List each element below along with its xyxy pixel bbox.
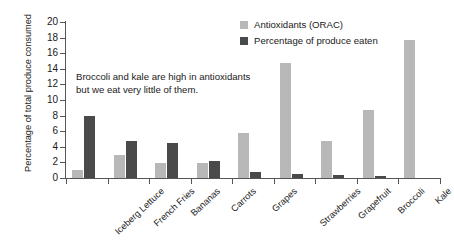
x-axis-category-label: Kale	[433, 186, 453, 206]
y-axis-tick-label: 0	[38, 173, 58, 183]
x-axis-category-label: Carrots	[229, 186, 258, 214]
y-axis-tick-label: 10	[38, 95, 58, 105]
bar-antioxidants[interactable]	[238, 133, 249, 178]
x-axis-tick	[315, 179, 316, 184]
legend-swatch-icon-produce-eaten	[240, 37, 248, 45]
bar-produce-eaten[interactable]	[126, 141, 137, 178]
chart-legend: Antioxidants (ORAC) Percentage of produc…	[240, 17, 378, 49]
x-axis-category-label: Grapes	[270, 186, 299, 214]
y-axis-tick	[60, 116, 65, 117]
bar-antioxidants[interactable]	[404, 40, 415, 178]
y-axis-tick	[60, 147, 65, 148]
bar-antioxidants[interactable]	[72, 170, 83, 178]
x-axis-tick	[108, 179, 109, 184]
x-axis-category-label: Broccoli	[396, 186, 427, 216]
y-axis-tick-labels: 20181614121086420	[36, 0, 58, 250]
y-axis-tick-label: 4	[38, 142, 58, 152]
y-axis-tick	[60, 38, 65, 39]
bar-antioxidants[interactable]	[280, 63, 291, 178]
y-axis-tick	[60, 53, 65, 54]
bar-produce-eaten[interactable]	[292, 174, 303, 178]
bar-antioxidants[interactable]	[321, 141, 332, 178]
y-axis-tick-label: 6	[38, 126, 58, 136]
legend-label-produce-eaten: Percentage of produce eaten	[254, 36, 378, 46]
legend-item-antioxidants[interactable]: Antioxidants (ORAC)	[240, 17, 378, 32]
legend-item-produce-eaten[interactable]: Percentage of produce eaten	[240, 33, 378, 48]
bar-produce-eaten[interactable]	[84, 116, 95, 178]
x-axis-tick	[440, 179, 441, 184]
y-axis-tick	[60, 22, 65, 23]
y-axis-tick	[60, 178, 65, 179]
bar-produce-eaten[interactable]	[250, 172, 261, 178]
bar-produce-eaten[interactable]	[333, 175, 344, 178]
y-axis-tick-label: 2	[38, 157, 58, 167]
x-axis-tick	[149, 179, 150, 184]
y-axis-tick-label: 12	[38, 79, 58, 89]
chart-annotation: Broccoli and kale are high in antioxidan…	[76, 71, 250, 96]
bar-antioxidants[interactable]	[155, 163, 166, 178]
bar-produce-eaten[interactable]	[375, 176, 386, 178]
y-axis-tick-label: 18	[38, 33, 58, 43]
bar-antioxidants[interactable]	[363, 110, 374, 178]
y-axis-tick-label: 8	[38, 111, 58, 121]
y-axis-title: Percentage of total produce consumed	[23, 3, 33, 183]
x-axis-tick	[357, 179, 358, 184]
x-axis-tick	[191, 179, 192, 184]
x-axis-tick	[274, 179, 275, 184]
y-axis-tick-label: 14	[38, 64, 58, 74]
chart-annotation-line-1: Broccoli and kale are high in antioxidan…	[76, 71, 250, 84]
x-axis-category-label: Strawberries	[318, 186, 363, 228]
y-axis-tick-label: 16	[38, 48, 58, 58]
legend-label-antioxidants: Antioxidants (ORAC)	[254, 20, 343, 30]
bar-produce-eaten[interactable]	[167, 143, 178, 178]
y-axis-tick	[60, 69, 65, 70]
y-axis-tick	[60, 131, 65, 132]
y-axis-tick	[60, 100, 65, 101]
x-axis-tick	[232, 179, 233, 184]
y-axis-tick	[60, 84, 65, 85]
chart-annotation-line-2: but we eat very little of them.	[76, 84, 250, 97]
legend-swatch-icon-antioxidants	[240, 21, 248, 29]
bar-antioxidants[interactable]	[197, 163, 208, 178]
x-axis-tick	[398, 179, 399, 184]
bar-produce-eaten[interactable]	[209, 161, 220, 178]
x-axis-tick	[66, 179, 67, 184]
y-axis-tick-label: 20	[38, 17, 58, 27]
x-axis-line	[65, 178, 441, 179]
y-axis-tick	[60, 162, 65, 163]
bar-antioxidants[interactable]	[114, 155, 125, 178]
